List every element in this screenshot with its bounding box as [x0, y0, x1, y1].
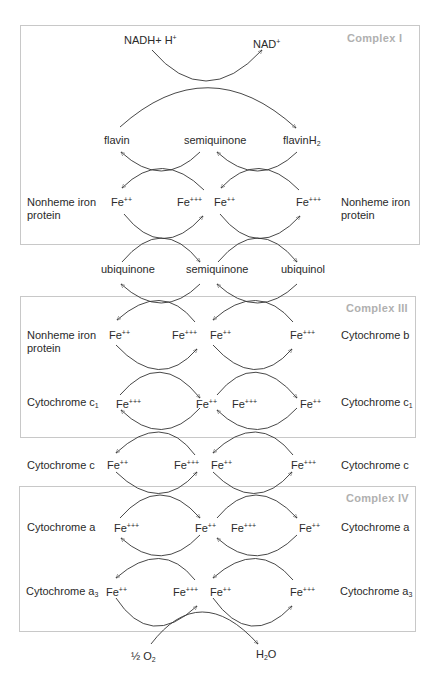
row1-right-label: Nonheme ironprotein — [341, 196, 410, 222]
row6-right-label: Cytochrome a3 — [340, 585, 412, 598]
row5-fe-1: Fe+++ — [114, 522, 139, 535]
row4-fe-4: Fe+++ — [291, 459, 316, 472]
row3-fe-1: Fe+++ — [116, 398, 141, 411]
row6-fe-2: Fe+++ — [173, 586, 198, 599]
row3-left-label: Cytochrome c1 — [27, 396, 99, 409]
h2o-label: H2O — [256, 648, 276, 661]
row3-right-label: Cytochrome c1 — [341, 396, 413, 409]
semiquinone-label-1: semiquinone — [184, 134, 246, 147]
row1-fe-2: Fe+++ — [177, 196, 202, 209]
row5-fe-2: Fe++ — [195, 522, 216, 535]
row2-fe-4: Fe+++ — [290, 329, 315, 342]
row1-fe-3: Fe++ — [214, 196, 235, 209]
row1-left-label: Nonheme ironprotein — [27, 196, 96, 222]
row1-fe-1: Fe++ — [111, 196, 132, 209]
ubiquinol-label: ubiquinol — [281, 263, 325, 276]
row2-left-label: Nonheme ironprotein — [27, 329, 96, 355]
row5-fe-4: Fe++ — [299, 522, 320, 535]
row3-fe-2: Fe++ — [196, 398, 217, 411]
row5-left-label: Cytochrome a — [27, 521, 95, 534]
row6-fe-1: Fe++ — [106, 586, 127, 599]
semiquinone-label-2: semiquinone — [186, 263, 248, 276]
row2-fe-1: Fe++ — [109, 329, 130, 342]
row4-left-label: Cytochrome c — [27, 459, 95, 472]
row5-fe-3: Fe+++ — [231, 522, 256, 535]
row5-right-label: Cytochrome a — [341, 521, 409, 534]
row4-fe-3: Fe++ — [211, 459, 232, 472]
row6-left-label: Cytochrome a3 — [26, 585, 98, 598]
flavin-label: flavin — [104, 134, 130, 147]
nadh-label: NADH+ H+ — [124, 34, 177, 47]
row2-fe-3: Fe++ — [210, 329, 231, 342]
flavinh2-label: flavinH2 — [283, 134, 321, 147]
electron-transport-diagram: Complex I Complex III Complex IV — [0, 0, 438, 678]
half-o2-label: ½ O2 — [131, 650, 156, 663]
row2-right-label: Cytochrome b — [341, 329, 409, 342]
row1-fe-4: Fe+++ — [296, 196, 321, 209]
row6-fe-3: Fe++ — [210, 586, 231, 599]
ubiquinone-label: ubiquinone — [101, 263, 155, 276]
nad-label: NAD+ — [253, 38, 280, 51]
row2-fe-2: Fe+++ — [172, 329, 197, 342]
row4-fe-2: Fe+++ — [174, 459, 199, 472]
row4-fe-1: Fe++ — [107, 459, 128, 472]
row6-fe-4: Fe+++ — [290, 586, 315, 599]
row4-right-label: Cytochrome c — [341, 459, 409, 472]
row3-fe-3: Fe+++ — [232, 398, 257, 411]
row3-fe-4: Fe++ — [300, 398, 321, 411]
